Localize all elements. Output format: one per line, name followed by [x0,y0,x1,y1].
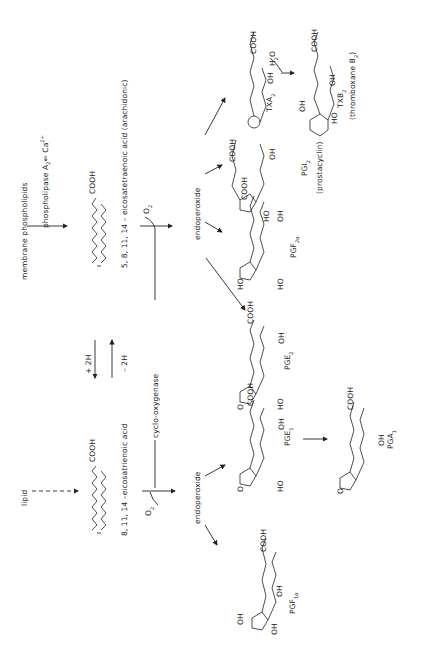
pgf1a-oh-3: OH [275,585,284,597]
arachidonic-structure [92,198,97,263]
eicosatrienoic-structure [92,466,97,530]
thromboxane-label: (thromboxane B2) [348,52,359,120]
pge2-cooh: COOH [246,301,255,324]
txb2-ring [310,114,328,136]
pgi2-cooh: COOH [228,139,237,162]
pge2-oxo: O [236,404,245,410]
pge2-oh: OH [277,332,286,344]
pga1-oh: OH [377,434,386,446]
pgf2a-oh: OH [276,210,285,222]
pga1-cooh: COOH [346,387,355,410]
o2-top-label: O2 [142,205,153,214]
prostacyclin-label: (prostacyclin) [315,141,324,194]
txb2-oh-2: OH [328,74,337,86]
pgf1a-ring [252,612,268,630]
pge1-cooh: COOH [246,383,255,406]
pgf1a-oh-1: OH [236,613,245,625]
pgi2-label: PGI2 [300,160,311,176]
pathway-arrows [0,0,427,652]
cooh-label-arachidonic: COOH [88,171,97,194]
arrow-to-pgf2a [205,222,222,232]
pge2-ho: HO [276,398,285,410]
cyclooxygenase-label: cyclo-oxygenase [151,374,160,438]
o2-curve-bottom [150,492,158,505]
txb2-ho: HO [330,112,339,124]
txa2-cooh: COOH [249,31,258,54]
txa2-ring [248,116,260,128]
cooh-label-eicosatrienoic: COOH [88,439,97,462]
phospholipase-label: phospholipase A2⇐ Ca2+ [39,135,51,228]
txb2-label: TXB2 [336,90,347,108]
pga1-oxo: O [336,488,345,494]
pge1-label: PGE1 [283,427,294,446]
pgf2a-ho-1: HO [236,278,245,290]
pgf2a-cooh: COOH [240,177,249,200]
lipid-label: lipid [20,490,29,506]
pgf2a-ho-2: HO [276,278,285,290]
txb2-oh-1: OH [298,100,307,112]
endoperoxide-bottom-label: endoperoxide [193,472,202,524]
txa2-label: TXA2 [265,94,276,112]
membrane-phospholipids-label: membrane phospholipids [20,183,29,280]
eicosatrienoic-acid-label: 8, 11, 14 –eicosatrienoic acid [120,423,129,536]
pgf1a-oh-2: OH [270,623,279,635]
pgi2-ho: HO [262,210,271,222]
h2o-label: H2O [268,51,279,66]
txa2-oh: OH [266,72,275,84]
pge2-label: PGE2 [283,351,294,370]
txb2-cooh: COOH [310,29,319,52]
o2-bottom-label: O2 [144,507,155,516]
minus-2h-label: – 2H [120,355,129,372]
arrow-to-pgi2 [205,165,222,174]
pgf1a-label: PGF1α [288,592,299,614]
arrow-to-pge1 [205,465,225,476]
pge1-oxo: O [236,486,245,492]
arachidonic-acid-label: 5, 8, 11, 14 – eicosatetraenoic acid (ar… [120,80,129,268]
pga1-label: PGA1 [386,430,397,449]
pgf2a-label: PGF2α [289,236,300,258]
pgi2-oh: OH [268,148,277,160]
arrow-to-txa2 [205,98,225,135]
pgf1a-cooh: COOH [259,529,268,552]
pge1-ho: HO [276,480,285,492]
plus-2h-label: + 2H [84,355,93,374]
arrow-to-pgf1a [205,525,217,545]
pge1-ring [240,468,256,486]
endoperoxide-top-label: endoperoxide [193,188,202,240]
